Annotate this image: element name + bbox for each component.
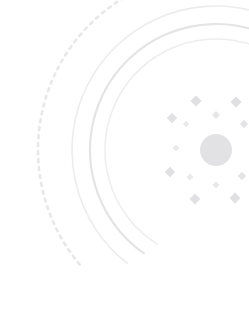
marker-nne-icon	[230, 96, 241, 107]
marker-w-icon	[173, 145, 180, 152]
marker-sse-icon	[230, 193, 241, 204]
marker-wnw-icon	[183, 121, 189, 127]
marker-ssw-icon	[190, 194, 201, 205]
marker-ene-icon	[240, 120, 248, 128]
marker-wsw-icon	[165, 167, 175, 177]
marker-n-icon	[212, 111, 220, 119]
ring-2-solid	[72, 6, 249, 263]
rings-layer	[38, 0, 249, 264]
marker-nw-icon	[167, 113, 177, 123]
marker-s-icon	[212, 181, 219, 188]
marker-nnw-icon	[190, 95, 201, 106]
marker-sw-icon	[187, 174, 194, 181]
marker-ese-icon	[238, 172, 246, 180]
core-disc	[200, 134, 232, 166]
concentric-radar-graphic	[0, 0, 249, 327]
core-layer	[200, 134, 232, 166]
graphic-canvas	[0, 0, 249, 327]
ring-1-dashed	[38, 0, 222, 264]
